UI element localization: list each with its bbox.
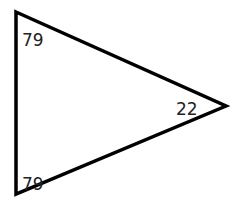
angle-label-bottom-left: 79 <box>22 174 44 194</box>
angle-label-top-left: 79 <box>22 30 44 50</box>
triangle-diagram: 79 79 22 <box>0 0 239 209</box>
angle-label-right: 22 <box>176 99 198 119</box>
